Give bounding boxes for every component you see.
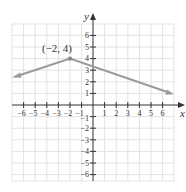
svg-text:1: 1 xyxy=(103,109,107,118)
coordinate-plane: −6 −5 −4 −3 −2 −1 1 2 3 4 5 6 1 2 3 4 5 … xyxy=(0,0,186,192)
right-arrowhead-icon xyxy=(166,90,175,95)
svg-text:−5: −5 xyxy=(80,159,89,168)
svg-text:5: 5 xyxy=(149,109,153,118)
svg-text:−2: −2 xyxy=(64,109,73,118)
vertex-point xyxy=(68,56,72,60)
axes xyxy=(12,18,180,181)
svg-text:3: 3 xyxy=(85,66,89,75)
svg-text:−1: −1 xyxy=(80,114,89,123)
svg-text:5: 5 xyxy=(85,43,89,52)
svg-text:1: 1 xyxy=(85,89,89,98)
x-axis-label: x xyxy=(179,107,185,119)
svg-text:3: 3 xyxy=(126,109,130,118)
svg-text:−4: −4 xyxy=(41,109,50,118)
svg-text:6: 6 xyxy=(161,109,165,118)
svg-text:−3: −3 xyxy=(80,136,89,145)
svg-text:−2: −2 xyxy=(80,124,89,133)
svg-text:−4: −4 xyxy=(80,147,89,156)
svg-text:4: 4 xyxy=(85,54,89,63)
left-arrowhead-icon xyxy=(12,73,22,78)
svg-text:−3: −3 xyxy=(52,109,61,118)
vertex-label: (−2, 4) xyxy=(42,42,72,55)
svg-text:−6: −6 xyxy=(80,170,89,179)
y-axis-label: y xyxy=(83,10,89,22)
y-axis-arrow-icon xyxy=(90,13,96,20)
svg-text:2: 2 xyxy=(114,109,118,118)
svg-text:−6: −6 xyxy=(17,109,26,118)
svg-text:4: 4 xyxy=(137,109,141,118)
svg-text:6: 6 xyxy=(85,31,89,40)
svg-text:2: 2 xyxy=(85,78,89,87)
svg-text:−5: −5 xyxy=(29,109,38,118)
